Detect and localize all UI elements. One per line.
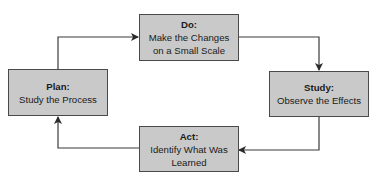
do-box: Do: Make the Changes on a Small Scale <box>139 14 239 61</box>
do-line1: Make the Changes <box>149 31 230 44</box>
act-box: Act: Identify What Was Learned <box>139 126 239 172</box>
act-title: Act: <box>180 130 199 143</box>
plan-line1: Study the Process <box>19 93 97 106</box>
do-title: Do: <box>181 18 197 31</box>
arrow-plan-to-do <box>58 37 138 69</box>
study-box: Study: Observe the Effects <box>269 71 369 117</box>
arrow-act-to-plan <box>58 117 139 148</box>
plan-title: Plan: <box>46 80 69 93</box>
arrow-do-to-study <box>238 37 319 70</box>
plan-box: Plan: Study the Process <box>8 69 108 116</box>
act-line1: Identify What Was <box>150 143 228 156</box>
arrow-study-to-act <box>239 117 319 150</box>
study-line1: Observe the Effects <box>277 94 361 107</box>
study-title: Study: <box>304 81 334 94</box>
do-line2: on a Small Scale <box>153 44 225 57</box>
act-line2: Learned <box>171 156 206 169</box>
